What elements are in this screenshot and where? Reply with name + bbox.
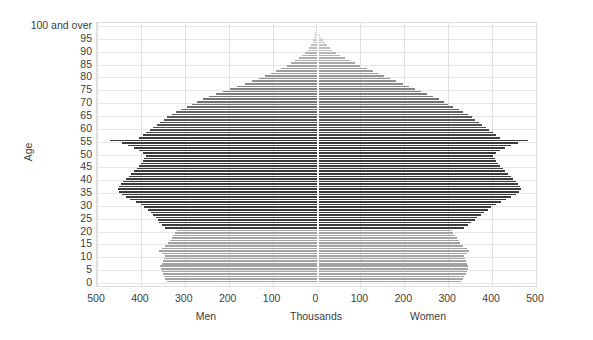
bar-men (159, 222, 316, 224)
bar-men (141, 163, 317, 165)
bar-men (309, 47, 316, 49)
bar-women (317, 260, 466, 262)
bar-women (317, 235, 456, 237)
bar-women (317, 281, 462, 283)
bar-women (317, 278, 464, 280)
bar-men (175, 232, 316, 234)
bar-men (165, 278, 316, 280)
bar-women (317, 155, 493, 157)
bar-men (164, 119, 317, 121)
bar-men (139, 137, 316, 139)
bar-women (317, 163, 499, 165)
bar-women (317, 73, 378, 75)
y-tick-label: 45 (80, 161, 92, 172)
bar-men (299, 57, 317, 59)
x-tick-label: 500 (87, 292, 105, 304)
bar-women (317, 268, 468, 270)
bar-men (161, 268, 316, 270)
bar-women (317, 114, 468, 116)
y-tick-label: 10 (80, 251, 92, 262)
x-tick-label: 200 (395, 292, 413, 304)
bar-women (317, 227, 465, 229)
bar-women (317, 271, 467, 273)
y-tick-label: 50 (80, 148, 92, 159)
bar-men (168, 242, 316, 244)
bar-women (317, 150, 501, 152)
bar-women (317, 191, 520, 193)
bar-women (317, 70, 373, 72)
bar-men (305, 52, 316, 54)
y-tick-label: 100 and over (31, 20, 92, 31)
bar-men (141, 204, 317, 206)
bar-women (317, 248, 467, 250)
bar-women (317, 65, 361, 67)
bar-women (317, 219, 475, 221)
x-tick-label: 200 (219, 292, 237, 304)
bar-women (317, 50, 333, 52)
bar-men (121, 183, 317, 185)
bar-women (317, 75, 385, 77)
bar-women (317, 119, 476, 121)
bar-women (317, 132, 493, 134)
bar-men (172, 237, 317, 239)
y-tick-label: 80 (80, 71, 92, 82)
bar-women (317, 176, 511, 178)
bar-women (317, 212, 485, 214)
bar-women (317, 188, 522, 190)
bar-men (162, 224, 317, 226)
bar-men (302, 55, 316, 57)
bar-women (317, 242, 461, 244)
bar-women (317, 158, 495, 160)
bar-men (118, 188, 316, 190)
bar-men (163, 273, 317, 275)
bar-men (197, 101, 316, 103)
bar-men (129, 176, 317, 178)
bar-men (271, 73, 317, 75)
bar-women (317, 127, 486, 129)
bar-women (317, 258, 465, 260)
bar-men (165, 245, 316, 247)
bar-women (317, 253, 467, 255)
bar-men (144, 158, 316, 160)
y-tick-label: 25 (80, 213, 92, 224)
bar-men (165, 227, 317, 229)
bar-women (317, 186, 521, 188)
bar-men (203, 98, 316, 100)
bar-men (167, 281, 316, 283)
bar-women (317, 137, 501, 139)
bar-men (146, 155, 316, 157)
bar-men (259, 78, 317, 80)
bar-women (317, 55, 341, 57)
y-tick-label: 75 (80, 84, 92, 95)
bar-men (170, 240, 317, 242)
x-tick-label: 500 (526, 292, 544, 304)
bar-men (276, 70, 316, 72)
bar-women (317, 98, 439, 100)
bar-women (317, 111, 464, 113)
bar-men (143, 160, 317, 162)
x-tick-label: 300 (175, 292, 193, 304)
bar-men (165, 255, 316, 257)
bar-women (317, 62, 356, 64)
y-tick-label: 0 (86, 277, 92, 288)
bar-women (317, 237, 457, 239)
bar-men (139, 165, 316, 167)
x-tick-label: 100 (263, 292, 281, 304)
bar-men (134, 170, 317, 172)
x-group-label-women: Women (410, 310, 446, 322)
bar-men (110, 140, 316, 142)
plot-area (96, 22, 537, 287)
bar-men (160, 122, 316, 124)
bar-men (230, 88, 316, 90)
bar-women (317, 204, 496, 206)
bar-women (317, 109, 459, 111)
bar-women (317, 209, 488, 211)
bar-women (317, 173, 508, 175)
bar-women (317, 145, 512, 147)
bar-women (317, 88, 415, 90)
x-tick-label: 0 (313, 292, 319, 304)
bar-men (156, 217, 317, 219)
bar-women (317, 183, 519, 185)
bar-women (317, 214, 481, 216)
bar-women (317, 232, 454, 234)
